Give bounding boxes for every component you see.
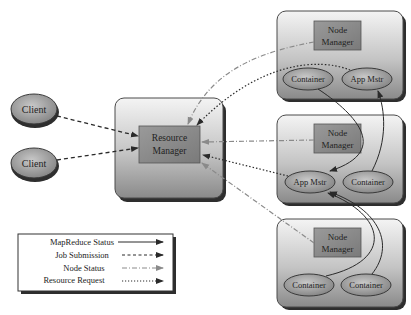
node-container-3: Node Manager Container Container bbox=[277, 219, 406, 310]
resource-manager-label-line2: Manager bbox=[153, 146, 188, 156]
client-node-1: Client bbox=[11, 94, 59, 128]
node-manager-label-line2: Manager bbox=[322, 244, 354, 254]
legend-label-mapreduce-status: MapReduce Status bbox=[50, 237, 114, 247]
container-label: Container bbox=[349, 280, 383, 290]
yarn-architecture-diagram: Client Client Resource Manager Node Mana… bbox=[0, 0, 411, 315]
container-label: Container bbox=[291, 74, 325, 84]
client-label: Client bbox=[22, 104, 47, 115]
container-label: Container bbox=[292, 280, 326, 290]
legend-label-job-submission: Job Submission bbox=[55, 250, 109, 260]
resource-manager-label-line1: Resource bbox=[152, 133, 187, 143]
node-manager-label-line1: Node bbox=[328, 232, 348, 242]
legend-label-node-status: Node Status bbox=[63, 263, 104, 273]
container-label: Container bbox=[351, 177, 385, 187]
resource-manager-box bbox=[139, 126, 200, 163]
client-label: Client bbox=[22, 158, 47, 169]
node-container-2: Node Manager App Mstr Container bbox=[277, 115, 406, 206]
client-node-2: Client bbox=[11, 148, 59, 182]
node-manager-label-line2: Manager bbox=[322, 37, 354, 47]
node-container-1: Node Manager Container App Mstr bbox=[277, 11, 406, 102]
app-master-label: App Mstr bbox=[351, 74, 384, 84]
app-master-label: App Mstr bbox=[294, 177, 327, 187]
legend: MapReduce Status Job Submission Node Sta… bbox=[18, 234, 176, 294]
node-manager-label-line2: Manager bbox=[322, 140, 354, 150]
node-manager-label-line1: Node bbox=[328, 25, 348, 35]
legend-label-resource-request: Resource Request bbox=[43, 275, 105, 285]
node-manager-label-line1: Node bbox=[328, 128, 348, 138]
